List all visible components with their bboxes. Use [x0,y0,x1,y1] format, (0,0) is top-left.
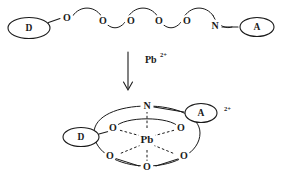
coordination-bond-pb-o1 [119,130,141,136]
oxygen-label-product-3: O [106,150,114,161]
nitrogen-label-product: N [143,100,151,111]
coordination-bond-pb-o3 [119,145,141,154]
oxygen-label-product-5: O [143,161,151,172]
oxygen-label-product-1: O [109,122,117,133]
coordination-bond-pb-o2 [153,130,175,136]
complex-charge-label: 2+ [224,105,231,112]
coordination-bond-pb-o4 [153,145,175,154]
acceptor-label-product: A [198,108,205,118]
bond-bottom-o-to-lowerright-o [156,158,181,166]
product-structure-layer: N A 2+ D O O O O O Pb [0,0,283,188]
oxygen-label-product-4: O [180,150,188,161]
reaction-scheme-figure: D O O O O O N A Pb 2+ [0,0,283,188]
donor-label-product: D [78,132,85,142]
metal-label-pb: Pb [141,133,154,145]
oxygen-label-product-2: O [177,122,185,133]
bond-lowerleft-o-to-bottom-o [114,158,139,166]
